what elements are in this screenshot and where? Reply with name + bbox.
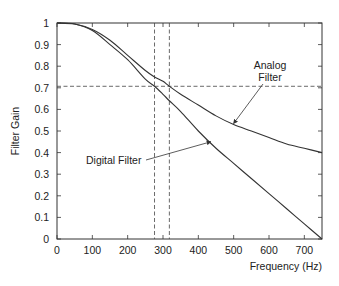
y-tick-label: 0.3 [34,168,49,180]
x-tick-label: 300 [154,244,172,256]
x-axis-title: Frequency (Hz) [250,260,322,272]
y-tick-label: 0.5 [34,125,49,137]
y-tick-label: 0.9 [34,39,49,51]
y-tick-label: 1 [43,17,49,29]
y-tick-label: 0.7 [34,82,49,94]
digital-filter-label: Digital Filter [86,154,142,166]
y-tick-label: 0.2 [34,190,49,202]
x-tick-label: 200 [119,244,137,256]
x-tick-label: 100 [84,244,102,256]
filter-gain-chart: 010020030040050060070000.10.20.30.40.50.… [0,0,339,286]
y-tick-label: 0.6 [34,103,49,115]
axis-ticks: 010020030040050060070000.10.20.30.40.50.… [34,17,322,256]
digital-arrow [146,142,211,160]
analog-filter-label: Analog [254,59,287,71]
annotations: AnalogFilterDigital Filter [86,59,287,166]
x-tick-label: 0 [54,244,60,256]
reference-lines [57,23,322,239]
y-tick-label: 0 [43,233,49,245]
analog-filter-curve [57,23,322,153]
x-tick-label: 400 [190,244,208,256]
data-series [57,23,322,239]
y-tick-label: 0.8 [34,60,49,72]
analog-filter-label: Filter [258,71,282,83]
plot-frame [57,23,322,239]
x-tick-label: 500 [225,244,243,256]
x-tick-label: 700 [296,244,314,256]
analog-arrow [234,84,263,123]
y-tick-label: 0.1 [34,211,49,223]
y-tick-label: 0.4 [34,147,49,159]
plot-border [57,23,322,239]
x-tick-label: 600 [260,244,278,256]
y-axis-title: Filter Gain [9,107,21,156]
digital-filter-curve [57,23,322,239]
